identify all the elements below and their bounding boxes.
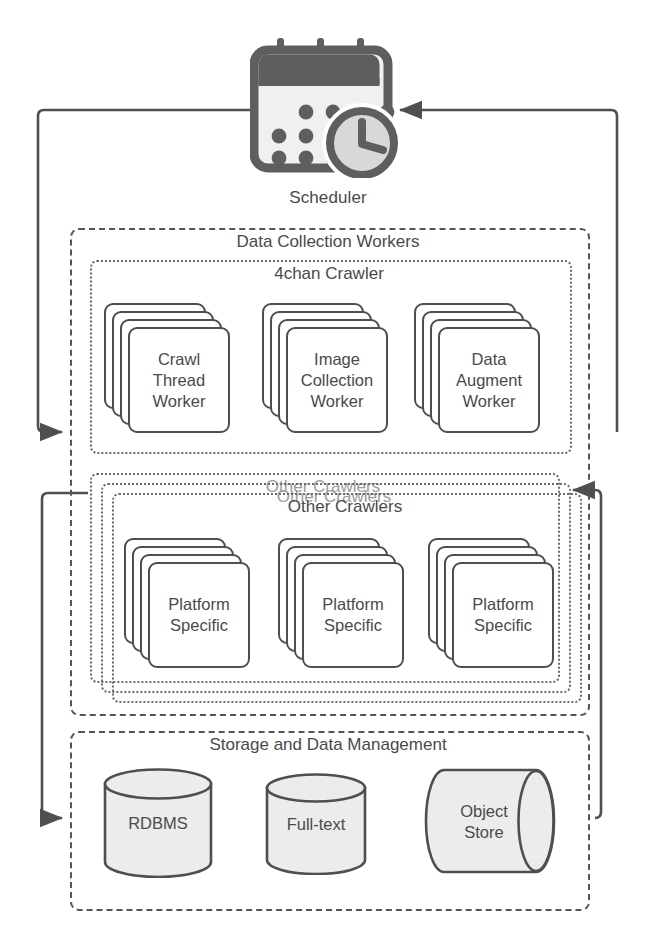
datastore-object-store-label: Object Store: [432, 766, 536, 878]
datastore-rdbms-label: RDBMS: [102, 768, 214, 878]
worker-label-line: Worker: [153, 391, 206, 412]
worker-card-text: Platform Specific: [148, 562, 250, 668]
worker-stack-image-collection[interactable]: Image Collection Worker: [262, 303, 390, 435]
worker-label-line: Worker: [463, 391, 516, 412]
worker-label-line: Platform: [322, 594, 383, 615]
worker-stack-platform-specific-3[interactable]: Platform Specific: [428, 538, 556, 670]
datastore-label-line: Object: [460, 801, 508, 822]
datastore-fulltext-label: Full-text: [264, 773, 368, 875]
worker-card-text: Data Augment Worker: [438, 327, 540, 433]
worker-stack-crawl-thread[interactable]: Crawl Thread Worker: [104, 303, 232, 435]
worker-stack-data-augment[interactable]: Data Augment Worker: [414, 303, 542, 435]
worker-label-line: Platform: [472, 594, 533, 615]
worker-label-line: Specific: [170, 615, 228, 636]
worker-label-line: Worker: [311, 391, 364, 412]
worker-label-line: Specific: [474, 615, 532, 636]
calendar-clock-icon: [250, 38, 406, 178]
4chan-crawler-title: 4chan Crawler: [90, 264, 568, 284]
datastore-label-line: Store: [464, 822, 503, 843]
worker-label-line: Thread: [153, 370, 205, 391]
worker-label-line: Crawl: [158, 349, 200, 370]
worker-card-text: Platform Specific: [302, 562, 404, 668]
storage-title: Storage and Data Management: [70, 735, 586, 755]
worker-stack-platform-specific-2[interactable]: Platform Specific: [278, 538, 406, 670]
worker-label-line: Data: [472, 349, 507, 370]
worker-card-text: Crawl Thread Worker: [128, 327, 230, 433]
worker-label-line: Specific: [324, 615, 382, 636]
data-collection-workers-title: Data Collection Workers: [70, 232, 586, 252]
worker-card-text: Image Collection Worker: [286, 327, 388, 433]
worker-label-line: Augment: [456, 370, 522, 391]
datastore-rdbms[interactable]: RDBMS: [102, 768, 214, 878]
architecture-diagram: Scheduler Data Collection Workers 4chan …: [0, 0, 656, 937]
worker-label-line: Image: [314, 349, 360, 370]
worker-stack-platform-specific-1[interactable]: Platform Specific: [124, 538, 252, 670]
worker-card-text: Platform Specific: [452, 562, 554, 668]
worker-label-line: Platform: [168, 594, 229, 615]
datastore-object-store[interactable]: Object Store: [424, 766, 560, 878]
other-crawlers-title: Other Crawlers: [112, 497, 578, 517]
scheduler-label: Scheduler: [0, 188, 656, 208]
datastore-fulltext[interactable]: Full-text: [264, 773, 368, 875]
worker-label-line: Collection: [301, 370, 373, 391]
